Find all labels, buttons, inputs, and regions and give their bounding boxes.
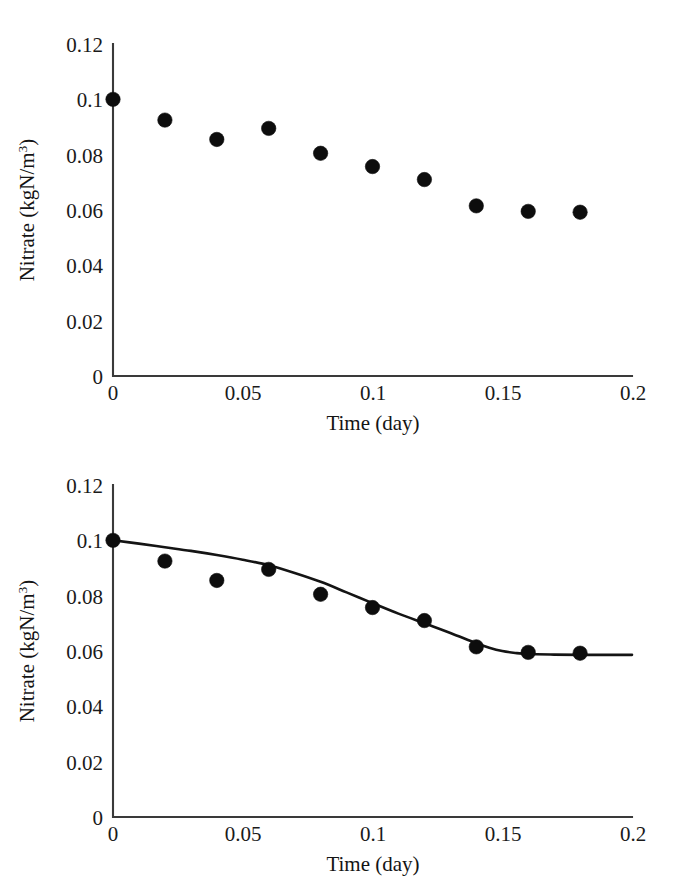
model-fit-curve (113, 540, 632, 655)
data-point (365, 600, 379, 614)
x-tick-label: 0 (108, 822, 119, 846)
y-tick-label: 0 (93, 365, 104, 389)
data-point (573, 205, 587, 219)
data-point (158, 113, 172, 127)
x-tick-label: 0.15 (485, 381, 522, 405)
data-point (417, 613, 431, 627)
x-tick-label: 0.2 (620, 822, 646, 846)
data-point (106, 92, 120, 106)
axis-lines-bottom (113, 485, 632, 817)
y-tick-label: 0 (93, 806, 104, 830)
y-tick-label: 0.02 (66, 751, 103, 775)
data-point (158, 554, 172, 568)
x-tick-label: 0.2 (620, 381, 646, 405)
axes-top (113, 44, 632, 376)
data-point (106, 533, 120, 547)
y-tick-label: 0.1 (77, 529, 103, 553)
chart-panel-bottom: 0.12 0.1 0.08 0.06 0.04 0.02 0 0 0.05 0.… (0, 441, 684, 882)
data-point (313, 587, 327, 601)
data-point (521, 645, 535, 659)
y-tick-label: 0.12 (66, 33, 103, 57)
y-tick-label: 0.06 (66, 199, 103, 223)
y-tick-label: 0.06 (66, 640, 103, 664)
axis-lines-top (113, 44, 632, 376)
figure-page: 0.12 0.1 0.08 0.06 0.04 0.02 0 0 0.05 0.… (0, 0, 684, 883)
data-point (262, 562, 276, 576)
y-tick-labels-top: 0.12 0.1 0.08 0.06 0.04 0.02 0 (66, 33, 103, 389)
data-point (417, 172, 431, 186)
data-point (262, 121, 276, 135)
x-axis-title: Time (day) (326, 411, 419, 435)
y-tick-label: 0.04 (66, 695, 103, 719)
data-point (521, 204, 535, 218)
data-point (573, 646, 587, 660)
data-point (210, 132, 224, 146)
data-point (313, 146, 327, 160)
plot-svg-top: 0.12 0.1 0.08 0.06 0.04 0.02 0 0 0.05 0.… (0, 0, 684, 441)
x-tick-label: 0.05 (225, 822, 262, 846)
x-tick-labels-top: 0 0.05 0.1 0.15 0.2 (108, 381, 646, 405)
y-tick-label: 0.08 (66, 585, 103, 609)
data-point (469, 640, 483, 654)
plot-svg-bottom: 0.12 0.1 0.08 0.06 0.04 0.02 0 0 0.05 0.… (0, 441, 684, 882)
x-tick-labels-bottom: 0 0.05 0.1 0.15 0.2 (108, 822, 646, 846)
y-tick-labels-bottom: 0.12 0.1 0.08 0.06 0.04 0.02 0 (66, 474, 103, 830)
y-tick-label: 0.04 (66, 254, 103, 278)
x-tick-label: 0.05 (225, 381, 262, 405)
y-axis-title-main: Nitrate (kgN/m (15, 152, 39, 281)
y-axis-title-tail: ) (15, 139, 39, 146)
y-axis-title-tail: ) (15, 580, 39, 587)
y-axis-title-main: Nitrate (kgN/m (15, 593, 39, 722)
y-axis-title: Nitrate (kgN/m3) (15, 580, 39, 723)
axes-bottom (113, 485, 632, 817)
y-tick-label: 0.02 (66, 310, 103, 334)
data-point (210, 573, 224, 587)
data-point (365, 159, 379, 173)
y-tick-label: 0.08 (66, 144, 103, 168)
data-point (469, 199, 483, 213)
x-tick-label: 0.1 (360, 381, 386, 405)
data-markers-bottom (106, 533, 588, 660)
chart-panel-top: 0.12 0.1 0.08 0.06 0.04 0.02 0 0 0.05 0.… (0, 0, 684, 441)
x-tick-label: 0 (108, 381, 119, 405)
y-axis-title: Nitrate (kgN/m3) (15, 139, 39, 282)
x-tick-label: 0.1 (360, 822, 386, 846)
x-tick-label: 0.15 (485, 822, 522, 846)
y-tick-label: 0.12 (66, 474, 103, 498)
data-markers-top (106, 92, 588, 219)
y-tick-label: 0.1 (77, 88, 103, 112)
x-axis-title: Time (day) (326, 852, 419, 876)
